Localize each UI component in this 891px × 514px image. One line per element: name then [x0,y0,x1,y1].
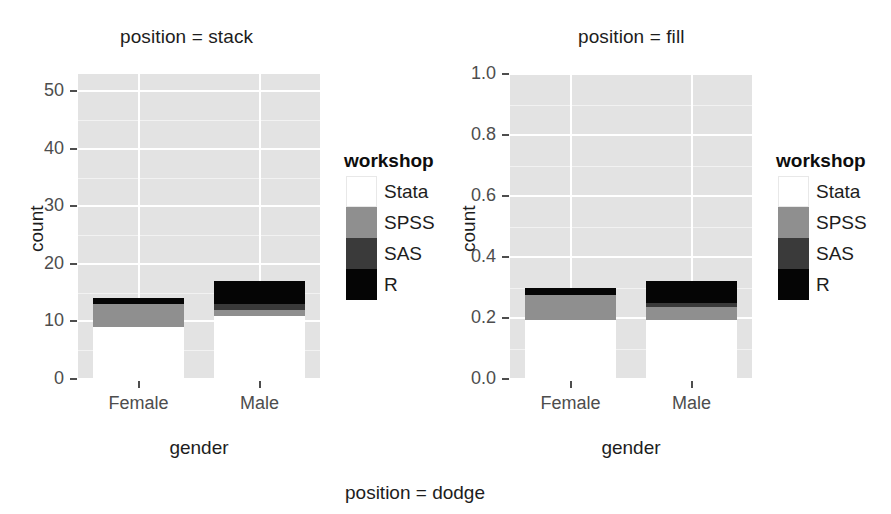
x-tick-label: Female [511,393,631,414]
y-tick-mark [70,378,77,380]
gridline-minor [78,178,320,179]
y-tick-mark [502,317,509,319]
y-tick-label: 50 [0,80,64,101]
facet-title-stack: position = stack [120,26,253,48]
x-tick-label: Male [200,393,320,414]
plot-panel-stack [78,74,320,379]
y-tick-mark [70,90,77,92]
figure-root: position = stack position = fill 0102030… [0,0,891,514]
gridline-major [510,74,752,75]
gridline-major [78,148,320,150]
legend-key-swatch [778,207,809,238]
legend-item-label: SPSS [816,207,867,238]
x-tick-mark [138,381,140,388]
gridline-major [510,195,752,197]
legend-item-label: R [384,269,435,300]
legend-item-label: Stata [384,176,435,207]
x-tick-mark [691,381,693,388]
legend-title: workshop [776,150,866,172]
bar-segment [525,320,617,379]
gridline-major [78,90,320,92]
legend-key-swatch [778,176,809,207]
y-axis-title-fill: count [458,206,480,252]
y-tick-mark [70,205,77,207]
x-tick-mark [570,381,572,388]
y-tick-mark [70,263,77,265]
legend-key-swatch [346,176,377,207]
bar-segment [646,320,738,379]
plot-panel-fill [510,74,752,379]
x-tick-label: Female [79,393,199,414]
legend-labels: StataSPSSSASR [816,176,867,300]
legend-key-swatch [346,269,377,300]
legend-item-label: R [816,269,867,300]
legend-keys [778,176,809,300]
y-tick-label: 10 [0,310,64,331]
gridline-major [510,134,752,136]
legend-item-label: SAS [816,238,867,269]
y-tick-label: 0.8 [422,124,496,145]
y-tick-label: 0 [0,368,64,389]
gridline-major [78,205,320,207]
gridline-minor [510,227,752,228]
x-axis-title-fill: gender [510,437,752,459]
x-axis-title-stack: gender [78,437,320,459]
x-tick-mark [259,381,261,388]
y-tick-mark [502,378,509,380]
legend-key-swatch [778,269,809,300]
legend-key-swatch [346,238,377,269]
facet-title-fill: position = fill [578,26,685,48]
legend-item-label: Stata [816,176,867,207]
y-tick-label: 20 [0,253,64,274]
legend-keys [346,176,377,300]
legend-title: workshop [344,150,434,172]
gridline-major [78,263,320,265]
y-tick-label: 0.2 [422,307,496,328]
gridline-minor [78,120,320,121]
y-tick-mark [502,134,509,136]
legend-key-swatch [778,238,809,269]
y-axis-title-stack: count [26,206,48,252]
y-tick-label: 40 [0,138,64,159]
bottom-caption: position = dodge [345,482,485,504]
bar-segment [214,316,306,379]
y-tick-mark [502,73,509,75]
legend-item-label: SPSS [384,207,435,238]
legend-key-swatch [346,207,377,238]
bar-segment [93,327,185,379]
gridline-minor [510,105,752,106]
gridline-major [510,256,752,258]
legend-labels: StataSPSSSASR [384,176,435,300]
y-tick-mark [70,320,77,322]
y-tick-label: 1.0 [422,63,496,84]
x-tick-label: Male [632,393,752,414]
y-tick-mark [502,195,509,197]
y-tick-mark [70,148,77,150]
y-tick-mark [502,256,509,258]
gridline-minor [78,235,320,236]
y-tick-label: 0.0 [422,368,496,389]
legend-item-label: SAS [384,238,435,269]
gridline-minor [510,166,752,167]
